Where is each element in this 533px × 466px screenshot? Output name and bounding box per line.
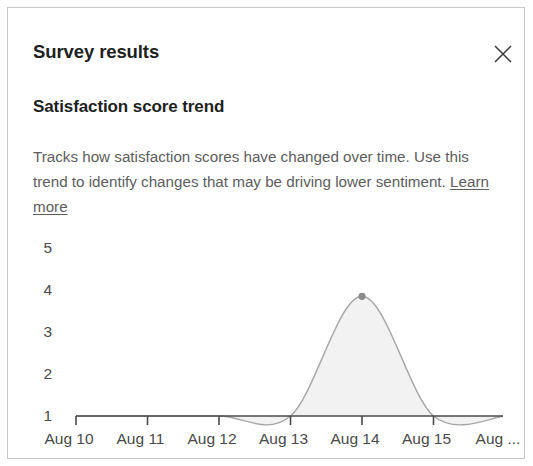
- survey-results-panel: Survey results Satisfaction score trend …: [7, 7, 525, 459]
- y-tick-label: 5: [34, 240, 52, 256]
- x-tick-label: Aug ...: [476, 431, 521, 447]
- y-tick-label: 3: [34, 324, 52, 340]
- section-heading: Satisfaction score trend: [33, 97, 224, 117]
- y-tick-label: 4: [34, 282, 52, 298]
- y-axis: 54321: [26, 226, 52, 459]
- peak-data-point-marker[interactable]: [358, 293, 365, 300]
- series-area-fill: [76, 296, 503, 425]
- satisfaction-score-chart: 54321 Aug 10Aug 11Aug 12Aug 13Aug 14Aug …: [8, 226, 525, 459]
- description-text: Tracks how satisfaction scores have chan…: [33, 148, 469, 190]
- section-description: Tracks how satisfaction scores have chan…: [33, 144, 503, 219]
- x-tick-label: Aug 10: [44, 431, 93, 447]
- page-title: Survey results: [33, 41, 159, 63]
- plot-area: [69, 226, 503, 426]
- x-tick-label: Aug 12: [187, 431, 236, 447]
- x-axis: Aug 10Aug 11Aug 12Aug 13Aug 14Aug 15Aug …: [35, 431, 525, 459]
- x-tick-label: Aug 13: [259, 431, 308, 447]
- y-tick-label: 2: [34, 366, 52, 382]
- x-tick-label: Aug 15: [402, 431, 451, 447]
- panel-header: Survey results: [8, 8, 524, 78]
- y-tick-label: 1: [34, 408, 52, 424]
- close-button[interactable]: [481, 33, 525, 75]
- x-tick-label: Aug 11: [117, 431, 165, 447]
- plot-svg: [69, 226, 503, 426]
- x-tick-label: Aug 14: [330, 431, 379, 447]
- close-icon: [493, 44, 513, 64]
- series-line: [76, 296, 503, 425]
